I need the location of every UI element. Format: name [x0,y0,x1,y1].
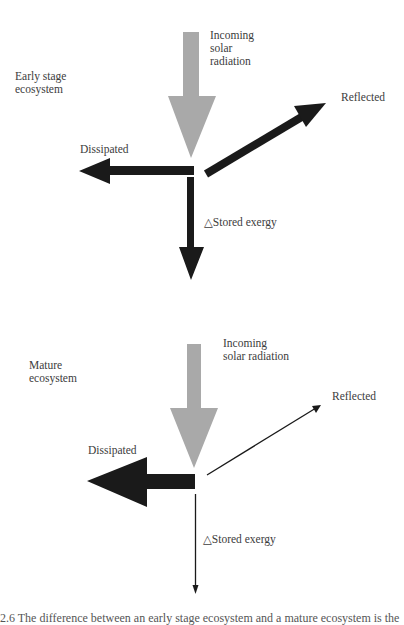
mature-incoming-label: Incoming solar radiation [223,337,289,363]
mature-diagram [87,344,321,594]
early-dissipated-arrow [79,158,194,184]
early-incoming-label: Incoming solar radiation [210,29,254,68]
mature-dissipated-arrow [87,457,195,507]
early-stored-exergy-label: △Stored exergy [204,216,277,229]
figure-caption: 2.6 The difference between an early stag… [0,611,404,625]
mature-stage-label: Mature ecosystem [29,359,77,385]
early-diagram [79,32,326,280]
mature-stored-exergy-label: △Stored exergy [203,533,276,546]
early-dissipated-label: Dissipated [80,143,129,156]
early-stored-arrow [179,177,204,280]
early-reflected-label: Reflected [341,91,385,104]
early-incoming-arrow [168,32,216,158]
mature-reflected-label: Reflected [332,390,376,403]
mature-dissipated-label: Dissipated [88,444,137,457]
mature-stored-arrow [193,494,199,594]
early-stage-label: Early stage ecosystem [15,70,66,96]
mature-reflected-arrow [207,405,321,475]
mature-incoming-arrow [170,344,218,468]
early-reflected-arrow [206,103,326,174]
